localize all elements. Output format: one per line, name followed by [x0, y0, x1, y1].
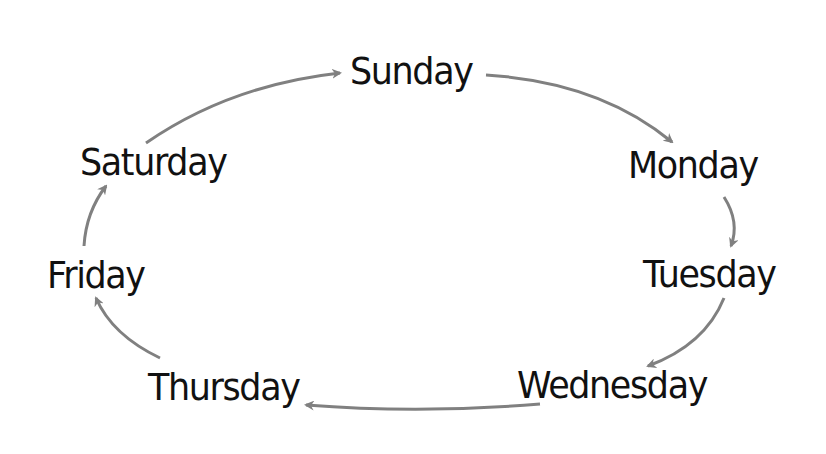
- node-saturday: Saturday: [80, 143, 227, 181]
- days-of-week-cycle-diagram: Sunday Monday Tuesday Wednesday Thursday…: [0, 0, 826, 454]
- node-thursday: Thursday: [148, 368, 300, 406]
- arrow-monday-to-tuesday: [724, 197, 734, 246]
- node-friday: Friday: [47, 256, 145, 294]
- arrow-tuesday-to-wednesday: [648, 298, 724, 366]
- arrow-friday-to-saturday: [84, 186, 106, 246]
- arrow-saturday-to-sunday: [146, 73, 340, 143]
- arrow-wednesday-to-thursday: [306, 404, 540, 409]
- node-wednesday: Wednesday: [517, 366, 707, 404]
- node-monday: Monday: [628, 146, 758, 184]
- arrow-sunday-to-monday: [486, 75, 672, 142]
- node-sunday: Sunday: [350, 52, 473, 90]
- node-tuesday: Tuesday: [643, 255, 776, 293]
- arrow-thursday-to-friday: [96, 298, 160, 358]
